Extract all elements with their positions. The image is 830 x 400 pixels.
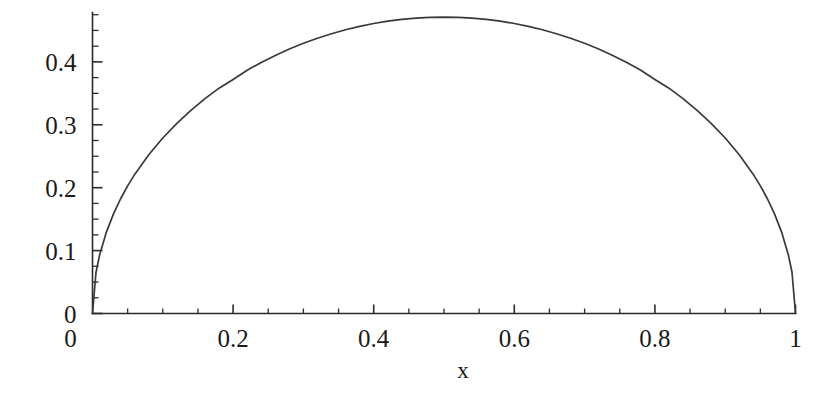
x-axis-major-ticks <box>233 305 795 314</box>
x-tick-label: 1 <box>789 325 802 352</box>
y-tick-label: 0.4 <box>45 49 77 76</box>
y-axis-major-ticks <box>93 62 103 314</box>
x-tick-label: 0.2 <box>217 325 248 352</box>
chart-figure: 00.10.20.30.4 00.20.40.60.81 x <box>0 0 830 400</box>
y-axis-minor-ticks <box>93 15 99 298</box>
y-axis-tick-labels: 00.10.20.30.4 <box>45 49 77 328</box>
y-tick-label: 0.3 <box>45 112 76 139</box>
x-tick-label: 0 <box>64 325 77 352</box>
y-tick-label: 0 <box>64 301 77 328</box>
x-tick-label: 0.8 <box>639 325 670 352</box>
y-tick-label: 0.2 <box>45 175 76 202</box>
x-axis-title: x <box>457 358 469 383</box>
data-curve-series-0 <box>93 17 796 313</box>
x-axis-tick-labels: 00.20.40.60.81 <box>64 325 802 352</box>
x-tick-label: 0.6 <box>499 325 530 352</box>
x-tick-label: 0.4 <box>358 325 390 352</box>
plot-area: 00.10.20.30.4 00.20.40.60.81 x <box>0 0 830 400</box>
y-tick-label: 0.1 <box>45 238 76 265</box>
